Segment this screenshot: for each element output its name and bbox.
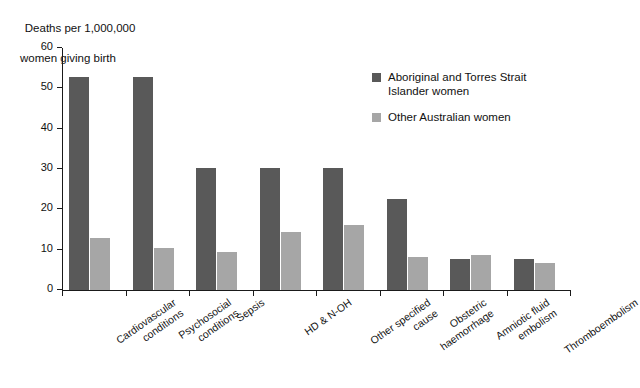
bar-indigenous <box>260 168 280 290</box>
y-axis-tick-label: 10 <box>41 242 53 254</box>
bar-group <box>62 48 126 290</box>
legend-item-indigenous: Aboriginal and Torres Strait Islander wo… <box>372 70 527 98</box>
bar-other-australian <box>90 238 110 290</box>
x-axis-category-label-line-1: Sepsis <box>234 296 267 324</box>
bar-other-australian <box>217 252 237 290</box>
legend-label-indigenous: Aboriginal and Torres Strait Islander wo… <box>388 70 527 98</box>
bar-group <box>126 48 190 290</box>
legend-label-indigenous-line-2: Islander women <box>388 85 469 97</box>
x-axis-category-label-line-1: Thromboembolism <box>562 296 640 356</box>
legend-swatch-icon-other-australian <box>372 113 381 122</box>
x-axis-category-label: Cardiovascularconditions <box>114 296 186 357</box>
bar-indigenous <box>69 77 89 290</box>
bar-group <box>253 48 317 290</box>
x-axis-category-label: Psychosocialconditions <box>176 296 241 352</box>
bar-indigenous <box>514 259 534 290</box>
bar-other-australian <box>154 248 174 290</box>
x-axis-tick <box>62 291 63 296</box>
bar-other-australian <box>535 263 555 290</box>
y-axis-tick-label: 50 <box>41 80 53 92</box>
bar-other-australian <box>471 255 491 290</box>
legend-swatch-icon-indigenous <box>372 73 381 82</box>
y-axis-tick-label: 0 <box>47 282 53 294</box>
bar-indigenous <box>450 259 470 290</box>
bar-other-australian <box>344 225 364 290</box>
x-axis-tick <box>380 291 381 296</box>
legend-item-other-australian: Other Australian women <box>372 110 527 124</box>
bar-other-australian <box>281 232 301 290</box>
y-axis-tick-label: 30 <box>41 161 53 173</box>
bar-indigenous <box>387 199 407 290</box>
bar-group <box>316 48 380 290</box>
x-axis-category-label: Thromboembolism <box>562 296 640 356</box>
x-axis-tick <box>189 291 190 296</box>
chart-legend: Aboriginal and Torres Strait Islander wo… <box>372 70 527 136</box>
bar-indigenous <box>133 77 153 290</box>
x-axis-category-label: Sepsis <box>234 296 267 324</box>
x-axis-tick <box>570 291 571 296</box>
x-axis-tick <box>126 291 127 296</box>
x-axis-category-label: Other specifiedcause <box>368 296 440 357</box>
y-axis-tick-label: 40 <box>41 121 53 133</box>
x-axis-tick <box>316 291 317 296</box>
x-axis-category-label: Amniotic fluidembolism <box>494 296 559 352</box>
y-axis-tick-label: 60 <box>41 40 53 52</box>
bar-group <box>189 48 253 290</box>
bar-indigenous <box>196 168 216 290</box>
x-axis-category-label: Obstetrichaemorrhage <box>430 296 496 352</box>
bar-indigenous <box>323 168 343 290</box>
y-axis-title-line-1: Deaths per 1,000,000 <box>25 22 136 34</box>
legend-label-indigenous-line-1: Aboriginal and Torres Strait <box>388 71 527 83</box>
x-axis-tick <box>253 291 254 296</box>
legend-label-other-australian: Other Australian women <box>388 110 511 124</box>
x-axis-category-label: HD & N-OH <box>302 296 354 338</box>
x-axis-category-label-line-1: HD & N-OH <box>302 296 354 337</box>
x-axis-tick <box>443 291 444 296</box>
bar-other-australian <box>408 257 428 290</box>
y-axis-tick-label: 20 <box>41 201 53 213</box>
x-axis-tick <box>507 291 508 296</box>
